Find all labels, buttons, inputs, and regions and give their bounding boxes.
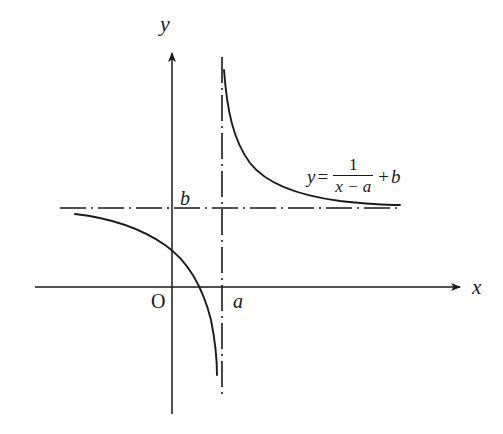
origin-label: O — [151, 291, 165, 311]
x-axis-label: x — [472, 277, 481, 298]
equation-plus-sign: + — [376, 166, 391, 188]
y-axis-label: y — [160, 13, 170, 35]
graph-svg — [0, 0, 503, 434]
function-equation-label: y=1x − a+b — [307, 157, 400, 197]
equation-equals-sign: = — [315, 166, 330, 188]
equation-lhs: y — [307, 166, 315, 188]
horizontal-asymptote-label: b — [180, 188, 190, 208]
curve-lower-branch — [75, 214, 217, 375]
equation-denominator: x − a — [333, 177, 373, 197]
equation-fraction: 1x − a — [330, 156, 376, 196]
figure-canvas: y x O a b y=1x − a+b — [0, 0, 503, 434]
vertical-asymptote-label: a — [233, 291, 243, 311]
fraction-bar — [333, 175, 373, 176]
equation-constant: b — [391, 166, 401, 188]
equation-numerator: 1 — [333, 156, 373, 174]
